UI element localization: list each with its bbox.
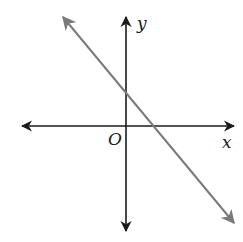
origin-label: O xyxy=(108,131,122,148)
graphed-line xyxy=(63,17,234,223)
coordinate-plane-svg xyxy=(0,0,243,242)
x-axis-label: x xyxy=(222,134,232,151)
coordinate-plane-figure: y O x xyxy=(0,0,243,242)
y-axis-label: y xyxy=(137,15,147,32)
